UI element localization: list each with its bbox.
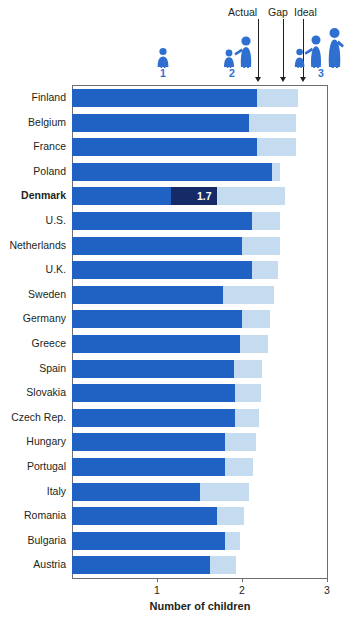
category-label: Spain (0, 362, 66, 374)
annotation-gap-arrow-icon (280, 77, 286, 82)
actual-bar-segment[interactable] (72, 483, 200, 501)
actual-bar-segment[interactable] (72, 89, 257, 107)
bar-row[interactable]: Bulgaria (0, 529, 344, 555)
bar-row[interactable]: Denmark1.7 (0, 184, 344, 210)
actual-bar-segment[interactable] (72, 532, 225, 550)
annotation-actual-arrow-icon (255, 77, 261, 82)
bar-row[interactable]: Slovakia (0, 381, 344, 407)
category-label: Sweden (0, 288, 66, 300)
category-label: Bulgaria (0, 534, 66, 546)
chart-canvas: Actual Gap Ideal 1 (0, 0, 344, 624)
x-tick-label: 2 (232, 584, 252, 596)
bar-row[interactable]: U.K. (0, 258, 344, 284)
bar-row[interactable]: Finland (0, 86, 344, 112)
bar-row[interactable]: France (0, 135, 344, 161)
actual-bar-segment[interactable] (72, 261, 252, 279)
bar-row[interactable]: Sweden (0, 283, 344, 309)
category-label: Romania (0, 509, 66, 521)
bar-row[interactable]: Greece (0, 332, 344, 358)
category-label: Italy (0, 485, 66, 497)
actual-bar-segment[interactable] (72, 458, 225, 476)
category-label: Slovakia (0, 386, 66, 398)
bar-row[interactable]: Austria (0, 553, 344, 579)
category-label: Austria (0, 558, 66, 570)
actual-bar-segment[interactable] (72, 310, 242, 328)
bar-row[interactable]: Hungary (0, 430, 344, 456)
category-label: U.K. (0, 263, 66, 275)
highlight-value-text: 1.7 (171, 187, 217, 205)
x-tick-label: 1 (147, 584, 167, 596)
actual-bar-segment[interactable] (72, 507, 217, 525)
annotation-gap-label: Gap (268, 6, 288, 18)
bar-row[interactable]: Romania (0, 504, 344, 530)
one-child-family-count: 1 (153, 67, 173, 79)
annotation-gap-leader-line (283, 19, 284, 78)
actual-bar-segment[interactable] (72, 409, 235, 427)
actual-bar-segment[interactable] (72, 286, 223, 304)
category-label: Poland (0, 165, 66, 177)
category-label: Germany (0, 312, 66, 324)
x-tick-label: 3 (317, 584, 337, 596)
bar-row[interactable]: Netherlands (0, 234, 344, 260)
actual-bar-segment[interactable] (72, 163, 272, 181)
annotation-ideal-label: Ideal (294, 6, 317, 18)
x-axis-title: Number of children (72, 600, 328, 612)
category-label: Belgium (0, 116, 66, 128)
three-child-family-count: 3 (311, 67, 331, 79)
category-label: Greece (0, 337, 66, 349)
annotation-actual-label: Actual (228, 6, 257, 18)
x-tick-mark (157, 578, 158, 582)
category-label: Czech Rep. (0, 411, 66, 423)
one-child-family-icon (155, 46, 171, 68)
two-child-family-count: 2 (222, 67, 242, 79)
x-tick-mark (327, 578, 328, 582)
bar-row[interactable]: Italy (0, 480, 344, 506)
actual-bar-segment[interactable] (72, 237, 242, 255)
x-tick-mark (242, 578, 243, 582)
category-label: Finland (0, 91, 66, 103)
bar-row[interactable]: Poland (0, 160, 344, 186)
three-child-family-icon (293, 27, 344, 68)
bar-row[interactable]: Spain (0, 357, 344, 383)
category-label: Netherlands (0, 239, 66, 251)
actual-bar-segment[interactable] (72, 138, 257, 156)
two-child-family-icon (222, 35, 260, 68)
annotation-ideal-arrow-icon (300, 77, 306, 82)
actual-bar-segment[interactable] (72, 433, 225, 451)
bar-row[interactable]: Portugal (0, 455, 344, 481)
category-label: France (0, 140, 66, 152)
bar-row[interactable]: Czech Rep. (0, 406, 344, 432)
category-label: Hungary (0, 435, 66, 447)
bar-row[interactable]: Belgium (0, 111, 344, 137)
actual-bar-segment[interactable] (72, 556, 210, 574)
category-label: Portugal (0, 460, 66, 472)
category-label: U.S. (0, 214, 66, 226)
actual-bar-segment[interactable] (72, 212, 252, 230)
bar-row[interactable]: Germany (0, 307, 344, 333)
actual-bar-segment[interactable] (72, 384, 235, 402)
actual-bar-segment[interactable] (72, 335, 240, 353)
category-label: Denmark (0, 189, 66, 201)
actual-bar-segment[interactable] (72, 360, 234, 378)
bar-row[interactable]: U.S. (0, 209, 344, 235)
actual-bar-segment[interactable] (72, 114, 249, 132)
